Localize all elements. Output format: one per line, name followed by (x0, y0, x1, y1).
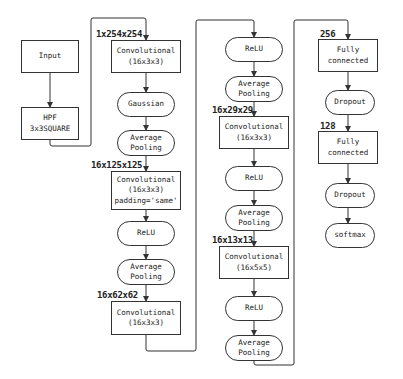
node-text: ReLU (245, 173, 263, 183)
node-text: Average (130, 133, 162, 143)
node-dropout1: Dropout (325, 90, 375, 115)
node-text: Average (238, 338, 270, 348)
node-dropout2: Dropout (325, 183, 375, 208)
node-conv1: Convolutional(16x3x3) (111, 40, 181, 73)
node-avgpool5: AveragePooling (225, 335, 283, 361)
node-text: ReLU (245, 44, 263, 54)
node-text: Average (238, 208, 270, 218)
node-conv5: Convolutional(16x5x5) (219, 246, 289, 279)
node-text: Pooling (130, 272, 162, 282)
node-relu1: ReLU (117, 221, 175, 246)
node-text: Pooling (238, 218, 270, 228)
node-text: (16x3x3) (236, 133, 272, 143)
node-softmax: softmax (325, 223, 375, 248)
node-text: ReLU (137, 228, 155, 238)
node-avgpool2: AveragePooling (117, 259, 175, 285)
node-text: Input (39, 51, 62, 61)
node-gaussian: Gaussian (117, 92, 175, 117)
label-dim-16x13x13: 16x13x13 (212, 235, 253, 245)
node-text: softmax (334, 230, 366, 240)
node-avgpool3: AveragePooling (225, 76, 283, 102)
node-text: HPF (43, 113, 57, 123)
node-relu2: ReLU (225, 37, 283, 62)
node-conv4: Convolutional(16x3x3) (219, 116, 289, 149)
node-fc1: Fullyconnected (318, 39, 378, 72)
node-text: (16x3x3) (128, 318, 164, 328)
node-text: Average (238, 79, 270, 89)
node-text: (16x3x3) (128, 185, 164, 195)
node-text: Fully (337, 137, 360, 147)
node-text: ReLU (245, 303, 263, 313)
node-text: (16x3x3) (128, 57, 164, 67)
label-dim-256: 256 (320, 29, 335, 39)
node-text: Convolutional (225, 122, 284, 132)
node-avgpool4: AveragePooling (225, 205, 283, 231)
node-text: Pooling (238, 89, 270, 99)
node-text: connected (328, 56, 369, 66)
node-text: Convolutional (117, 175, 176, 185)
label-dim-16x125x125: 16x125x125 (91, 160, 142, 170)
node-text: Average (130, 262, 162, 272)
node-text: Pooling (238, 348, 270, 358)
node-hpf: HPF3x3SQUARE (21, 107, 79, 140)
label-dim-128: 128 (320, 121, 335, 131)
label-dim-16x62x62: 16x62x62 (97, 290, 138, 300)
node-text: connected (328, 148, 369, 158)
node-text: Fully (337, 45, 360, 55)
node-text: padding='same' (114, 196, 177, 206)
node-text: Convolutional (225, 252, 284, 262)
node-text: Pooling (130, 143, 162, 153)
node-relu4: ReLU (225, 296, 283, 321)
node-text: Convolutional (117, 46, 176, 56)
label-dim-1x254x254: 1x254x254 (96, 29, 142, 39)
node-text: Dropout (334, 97, 366, 107)
node-text: Gaussian (128, 99, 164, 109)
node-input: Input (21, 40, 79, 73)
node-text: Convolutional (117, 308, 176, 318)
node-avgpool1: AveragePooling (117, 130, 175, 156)
node-fc2: Fullyconnected (318, 131, 378, 164)
node-conv3: Convolutional(16x3x3) (111, 301, 181, 335)
node-conv2: Convolutional(16x3x3)padding='same' (111, 171, 181, 210)
diagram-canvas: InputHPF3x3SQUAREConvolutional(16x3x3)Ga… (0, 0, 403, 379)
node-relu3: ReLU (225, 166, 283, 191)
node-text: 3x3SQUARE (30, 124, 71, 134)
node-text: (16x5x5) (236, 263, 272, 273)
node-text: Dropout (334, 190, 366, 200)
label-dim-16x29x29: 16x29x29 (212, 105, 253, 115)
